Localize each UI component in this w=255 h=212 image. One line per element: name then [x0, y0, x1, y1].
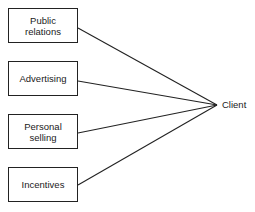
line-incentives-to-client [78, 105, 217, 185]
line-personal-selling-to-client [78, 105, 217, 133]
box-personal-selling: Personal selling [8, 114, 78, 149]
box-label: Public relations [25, 15, 61, 37]
box-public-relations: Public relations [8, 8, 78, 43]
box-label: Incentives [22, 179, 65, 190]
box-label: Personal selling [24, 121, 62, 143]
box-advertising: Advertising [8, 61, 78, 96]
box-incentives: Incentives [8, 167, 78, 202]
box-label: Advertising [20, 73, 67, 84]
client-label: Client [222, 99, 246, 110]
